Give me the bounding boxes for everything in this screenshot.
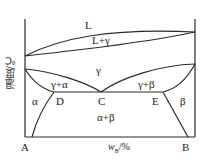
region-gamma: γ	[96, 65, 101, 76]
point-D: D	[56, 96, 64, 107]
component-B: B	[182, 142, 189, 153]
solidus-curve	[25, 32, 195, 56]
region-beta: β	[180, 96, 186, 107]
point-E: E	[152, 96, 159, 107]
region-alpha-beta: α+β	[97, 112, 115, 123]
gamma-beta-lower-boundary	[163, 64, 195, 92]
x-axis-label: wB/%	[108, 142, 130, 154]
liquidus-curve	[25, 31, 195, 56]
region-liquid-gamma: L+γ	[92, 35, 110, 46]
region-gamma-alpha: γ+α	[51, 79, 68, 90]
region-alpha: α	[32, 96, 38, 107]
y-axis-label: 温度/℃	[3, 55, 18, 89]
point-C: C	[98, 96, 105, 107]
region-gamma-beta: γ+β	[138, 79, 155, 90]
component-A: A	[21, 142, 29, 153]
region-liquid: L	[85, 20, 92, 31]
phase-diagram	[0, 0, 206, 162]
x-axis-label-main: w	[108, 141, 115, 152]
x-axis-label-unit: /%	[119, 141, 130, 152]
